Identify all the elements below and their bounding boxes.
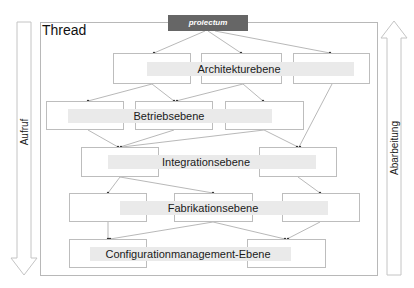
betrieb-label: Betriebsebene [134, 110, 205, 122]
config-label: Configurationmanagement-Ebene [105, 248, 270, 260]
architektur-label: Architekturebene [197, 63, 280, 75]
proiectum-node: proiectum [168, 15, 248, 31]
connector-lines [0, 0, 414, 288]
integration-label: Integrationsebene [162, 156, 250, 168]
fabrikation-label: Fabrikationsebene [168, 202, 259, 214]
